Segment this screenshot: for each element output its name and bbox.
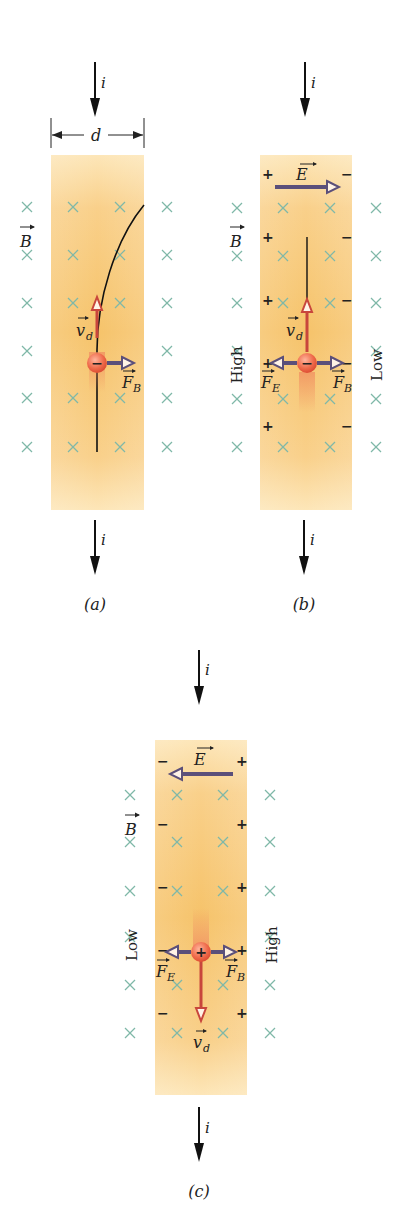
svg-text:v: v [286, 321, 295, 340]
svg-text:−: − [341, 229, 353, 245]
svg-text:+: + [236, 942, 248, 958]
svg-text:v: v [76, 321, 85, 340]
svg-text:+: + [236, 1005, 248, 1021]
svg-text:+: + [262, 292, 274, 308]
panel-a: i d B [19, 62, 172, 614]
svg-text:−: − [157, 942, 169, 958]
panel-caption-a: (a) [84, 595, 106, 614]
b-field-label: B [124, 813, 140, 840]
potential-label-left: High [228, 346, 246, 383]
potential-label-right: Low [368, 349, 386, 381]
svg-text:B: B [124, 820, 137, 839]
svg-text:−: − [91, 355, 103, 371]
svg-text:B: B [343, 382, 352, 395]
panel-c: i E B − − − − − + + + + + [123, 650, 281, 1201]
negative-charge-carrier: − [87, 353, 107, 373]
hall-effect-figure: i d B [0, 0, 400, 1217]
svg-text:−: − [157, 816, 169, 832]
svg-text:i: i [101, 531, 106, 549]
current-label: i [101, 74, 106, 92]
negative-charge-carrier: − [297, 353, 317, 373]
svg-text:E: E [271, 382, 280, 395]
b-field-label: B [229, 225, 245, 252]
positive-charge-carrier: + [191, 942, 211, 962]
width-label: d [91, 126, 101, 145]
svg-text:v: v [193, 1033, 202, 1052]
b-field-label: B [19, 225, 35, 252]
svg-text:i: i [205, 1119, 210, 1137]
svg-text:−: − [341, 292, 353, 308]
svg-text:E: E [295, 165, 308, 184]
current-arrow-top: i [194, 650, 210, 705]
svg-text:+: + [236, 879, 248, 895]
svg-text:−: − [341, 418, 353, 434]
svg-text:d: d [86, 330, 93, 343]
current-arrow-top: i [90, 62, 106, 117]
svg-text:+: + [262, 229, 274, 245]
svg-text:i: i [311, 74, 316, 92]
svg-text:i: i [310, 531, 315, 549]
svg-text:E: E [193, 750, 206, 769]
svg-text:+: + [262, 418, 274, 434]
svg-text:+: + [236, 816, 248, 832]
potential-label-right: High [263, 926, 281, 963]
current-arrow-bottom: i [90, 520, 106, 575]
svg-text:+: + [236, 753, 248, 769]
current-arrow-bottom: i [299, 520, 315, 575]
svg-text:B: B [132, 382, 141, 395]
current-arrow-bottom: i [194, 1107, 210, 1162]
svg-text:+: + [195, 944, 207, 960]
svg-text:−: − [157, 753, 169, 769]
width-dimension: d [51, 118, 144, 148]
potential-label-left: Low [123, 929, 141, 961]
svg-text:−: − [301, 355, 313, 371]
panel-b: i E B + + + + + − − − − [228, 62, 386, 614]
svg-text:−: − [157, 1005, 169, 1021]
svg-text:i: i [205, 661, 210, 679]
panel-caption-c: (c) [188, 1182, 209, 1201]
svg-text:+: + [262, 166, 274, 182]
svg-text:E: E [166, 971, 175, 984]
panel-caption-b: (b) [293, 595, 316, 614]
svg-text:B: B [229, 232, 242, 251]
svg-text:−: − [157, 879, 169, 895]
current-arrow-top: i [300, 62, 316, 117]
svg-text:B: B [236, 971, 245, 984]
svg-text:d: d [296, 330, 303, 343]
svg-text:−: − [341, 166, 353, 182]
svg-text:B: B [19, 232, 32, 251]
svg-text:d: d [203, 1042, 210, 1055]
